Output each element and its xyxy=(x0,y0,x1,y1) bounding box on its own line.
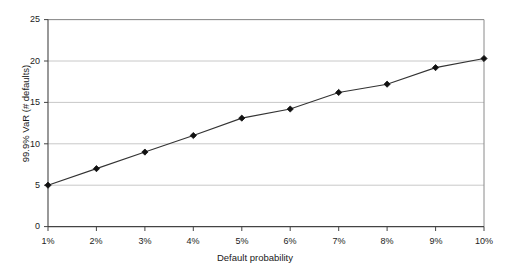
gridlines xyxy=(48,20,484,186)
x-tick-label-2: 2% xyxy=(81,236,111,246)
data-point-marker xyxy=(190,132,196,138)
data-point-marker xyxy=(45,182,51,188)
chart-container: 25 20 15 10 5 0 1% 2% 3% 4% 5% 6% 7% 8% … xyxy=(0,0,510,275)
data-point-marker xyxy=(432,65,438,71)
x-tick-label-8: 8% xyxy=(372,236,402,246)
data-point-marker xyxy=(93,166,99,172)
data-series-line xyxy=(48,59,484,186)
data-point-marker xyxy=(287,106,293,112)
y-tick-label-25: 25 xyxy=(16,14,40,24)
x-tick-label-5: 5% xyxy=(227,236,257,246)
line-chart-plot xyxy=(0,0,510,275)
x-tick-label-1: 1% xyxy=(33,236,63,246)
x-tick-label-7: 7% xyxy=(324,236,354,246)
data-series-markers xyxy=(45,55,487,188)
y-axis-ticks xyxy=(44,20,48,227)
data-point-marker xyxy=(384,81,390,87)
plot-area-border xyxy=(48,20,484,227)
y-tick-label-0: 0 xyxy=(16,221,40,231)
x-tick-label-4: 4% xyxy=(178,236,208,246)
data-point-marker xyxy=(239,115,245,121)
x-axis-title: Default probability xyxy=(0,252,510,263)
x-tick-label-3: 3% xyxy=(130,236,160,246)
x-tick-label-6: 6% xyxy=(275,236,305,246)
data-point-marker xyxy=(336,89,342,95)
data-point-marker xyxy=(142,149,148,155)
x-tick-label-10: 10% xyxy=(469,236,499,246)
x-tick-label-9: 9% xyxy=(421,236,451,246)
x-axis-ticks xyxy=(48,227,484,231)
y-axis-title: 99.9% VaR (# defaults) xyxy=(20,44,31,184)
